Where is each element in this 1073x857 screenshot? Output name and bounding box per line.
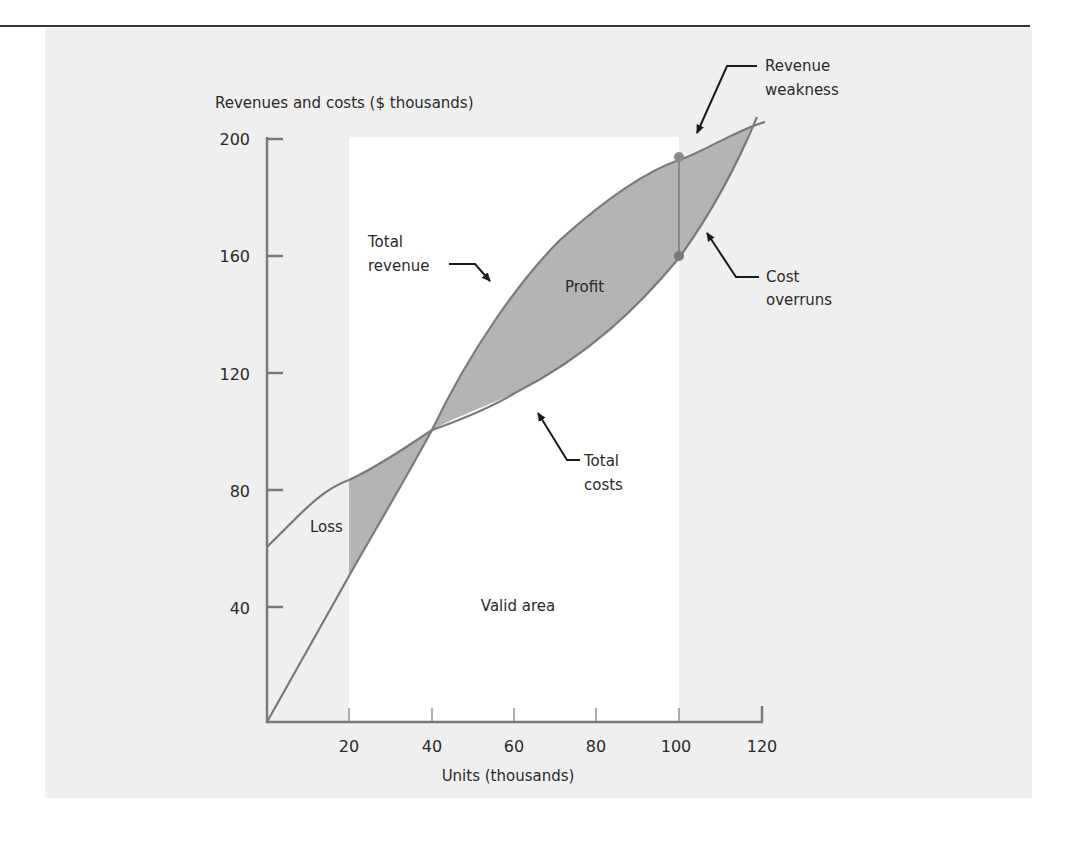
revenue-weakness-label-line1: Revenue <box>765 57 830 75</box>
revenue-weakness-label-line2: weakness <box>765 81 839 99</box>
profit-label: Profit <box>565 278 604 296</box>
cost-overruns-label-line1: Cost <box>766 268 799 286</box>
y-tick-120: 120 <box>219 365 250 384</box>
cost-marker-x100 <box>674 251 684 261</box>
x-tick-100: 100 <box>661 737 692 756</box>
valid-area-label: Valid area <box>481 597 555 615</box>
y-axis-title: Revenues and costs ($ thousands) <box>215 94 474 112</box>
x-tick-20: 20 <box>339 737 359 756</box>
x-tick-120: 120 <box>747 737 778 756</box>
total-revenue-label-line2: revenue <box>368 257 429 275</box>
x-tick-60: 60 <box>504 737 524 756</box>
breakeven-chart: 200 160 120 80 40 20 40 60 80 100 120 Re… <box>0 0 1073 857</box>
total-costs-label-line1: Total <box>583 452 619 470</box>
total-costs-label-line2: costs <box>584 476 623 494</box>
x-axis-title: Units (thousands) <box>442 767 575 785</box>
y-tick-80: 80 <box>230 482 250 501</box>
y-tick-160: 160 <box>219 247 250 266</box>
cost-overruns-label-line2: overruns <box>766 291 832 309</box>
loss-label: Loss <box>310 518 343 536</box>
total-revenue-label-line1: Total <box>367 233 403 251</box>
y-tick-40: 40 <box>230 599 250 618</box>
x-axis <box>266 706 763 722</box>
revenue-marker-x100 <box>674 152 684 162</box>
x-tick-80: 80 <box>586 737 606 756</box>
y-tick-200: 200 <box>219 130 250 149</box>
y-axis <box>267 137 283 723</box>
x-tick-40: 40 <box>422 737 442 756</box>
cost-overruns-arrow-icon <box>707 233 759 277</box>
revenue-weakness-arrow-icon <box>697 66 757 133</box>
